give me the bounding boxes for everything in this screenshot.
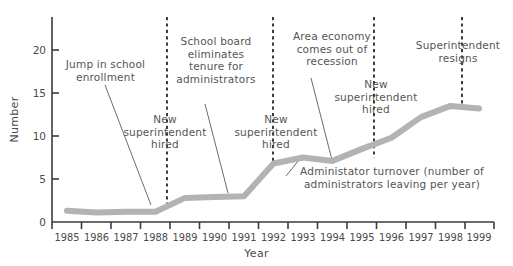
annotation-area-economy-out-of-recession: Area economy comes out of recession xyxy=(280,30,384,68)
x-tick-label: 1994 xyxy=(320,232,345,243)
chart-container: 20 15 10 5 0 1985 1986 xyxy=(0,0,513,266)
x-tick-label: 1995 xyxy=(350,232,375,243)
x-tick-label: 1985 xyxy=(55,232,80,243)
x-tick-label: 1990 xyxy=(202,232,227,243)
annotation-new-superintendent-hired-1992: New superintendent hired xyxy=(226,113,326,151)
y-axis-title: Number xyxy=(8,89,21,151)
y-tick-label: 0 xyxy=(39,216,46,228)
x-tick-label: 1992 xyxy=(261,232,286,243)
y-tick-label: 15 xyxy=(33,87,46,99)
annotation-new-superintendent-hired-1996: New superintendent hired xyxy=(326,78,426,116)
y-tick-label: 20 xyxy=(33,44,46,56)
annotation-jump-in-school-enrollment: Jump in school enrollment xyxy=(48,58,163,83)
x-tick-label: 1989 xyxy=(173,232,198,243)
x-axis-ticks xyxy=(52,222,494,229)
x-axis-tick-labels: 1985 1986 1987 1988 1989 1990 1991 1992 … xyxy=(55,232,492,243)
annotation-school-board-eliminates-tenure: School board eliminates tenure for admin… xyxy=(165,35,267,85)
annotation-series-inline-label: Administator turnover (number of adminis… xyxy=(288,165,496,190)
x-tick-label: 1996 xyxy=(379,232,404,243)
annotation-superintendent-resigns: Superintendent resigns xyxy=(406,39,510,64)
y-axis-tick-labels: 20 15 10 5 0 xyxy=(33,44,46,228)
y-tick-label: 5 xyxy=(39,173,46,185)
x-tick-label: 1997 xyxy=(409,232,434,243)
x-tick-label: 1991 xyxy=(232,232,257,243)
x-tick-label: 1999 xyxy=(467,232,492,243)
annotation-new-superintendent-hired-1988: New superintendent hired xyxy=(115,113,215,151)
x-tick-label: 1993 xyxy=(291,232,316,243)
x-tick-label: 1998 xyxy=(438,232,463,243)
x-tick-label: 1987 xyxy=(114,232,139,243)
x-axis-title: Year xyxy=(0,247,513,260)
x-tick-label: 1986 xyxy=(84,232,109,243)
y-tick-label: 10 xyxy=(33,130,46,142)
x-tick-label: 1988 xyxy=(143,232,168,243)
